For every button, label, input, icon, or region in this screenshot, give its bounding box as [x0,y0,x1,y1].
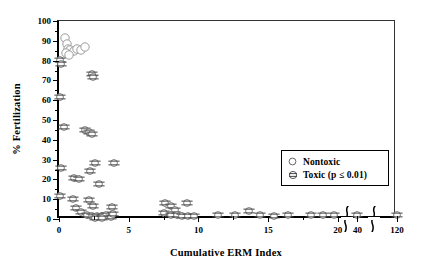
data-point-toxic [317,209,329,221]
data-point-toxic [107,208,119,220]
y-tick [53,120,59,121]
open-circle-icon [287,156,298,167]
y-tick-minor [55,130,59,131]
legend-label-nontoxic: Nontoxic [303,157,340,167]
y-tick-label: 0 [47,214,52,224]
axis-break-icon [341,206,353,232]
data-point-toxic [305,210,317,222]
y-tick-label: 20 [42,174,51,184]
data-point-toxic [243,205,255,217]
data-point-toxic [254,210,266,222]
data-point-toxic [268,210,280,222]
legend-label-toxic: Toxic (p ≤ 0.01) [303,170,367,180]
x-tick-minor [164,216,165,220]
y-tick-minor [55,110,59,111]
x-tick-minor [233,216,234,220]
plot-area: 01020304050607080901000510152040120 [57,20,395,218]
x-tick [59,216,60,222]
data-point-toxic [282,210,294,222]
x-tick-label: 15 [264,225,273,235]
x-tick [357,216,358,222]
y-tick-minor [55,170,59,171]
barred-circle-icon [287,169,298,180]
x-tick-minor [94,216,95,220]
y-tick-minor [55,150,59,151]
y-tick-label: 10 [42,194,51,204]
y-tick-label: 30 [42,155,51,165]
axis-break-icon [368,206,380,232]
y-tick [53,140,59,141]
x-tick [198,216,199,222]
y-tick [53,41,59,42]
x-tick-label: 10 [194,225,203,235]
data-point-toxic [229,210,241,222]
y-tick [53,21,59,22]
data-point-toxic [73,173,85,185]
y-tick-label: 40 [42,135,51,145]
y-tick [53,160,59,161]
data-point-toxic [54,190,66,202]
y-tick-label: 80 [42,56,51,66]
x-tick-label: 5 [126,225,131,235]
data-point-toxic [58,121,70,133]
legend-item-toxic: Toxic (p ≤ 0.01) [287,168,383,181]
data-point-toxic [96,212,108,224]
y-tick-minor [55,51,59,52]
data-point-toxic [87,72,99,84]
y-tick-label: 90 [42,36,51,46]
data-point-toxic [55,162,67,174]
y-tick-minor [55,209,59,210]
x-tick-label: 120 [390,225,404,235]
legend: Nontoxic Toxic (p ≤ 0.01) [281,150,389,186]
y-tick [53,179,59,180]
x-tick [129,216,130,222]
y-tick-label: 100 [38,16,52,26]
x-tick-label: 40 [353,225,362,235]
data-point-toxic [54,91,66,103]
data-point-toxic [181,197,193,209]
x-tick-label: 0 [57,225,62,235]
y-tick-label: 50 [42,115,51,125]
y-tick [53,61,59,62]
y-tick-minor [55,71,59,72]
data-point-toxic [212,210,224,222]
y-axis-title: % Fertilization [11,83,22,155]
x-axis-title: Cumulative ERM Index [170,247,282,258]
x-tick [268,216,269,222]
x-tick-minor [303,216,304,220]
x-tick [397,216,398,222]
data-point-toxic [86,128,98,140]
data-point-toxic [93,178,105,190]
y-tick-label: 60 [42,95,51,105]
data-canvas [59,21,394,216]
figure: % Fertilization Cumulative ERM Index 010… [0,0,424,267]
y-tick-minor [55,90,59,91]
x-tick [338,216,339,222]
y-tick [53,199,59,200]
y-tick [53,100,59,101]
data-point-toxic [108,157,120,169]
y-tick-label: 70 [42,75,51,85]
y-tick [53,80,59,81]
data-point-toxic [84,166,96,178]
data-point-toxic [55,58,67,70]
y-tick-minor [55,31,59,32]
legend-item-nontoxic: Nontoxic [287,155,383,168]
y-axis-title-wrapper: % Fertilization [14,0,16,238]
y-tick-minor [55,189,59,190]
data-point-nontoxic [79,41,90,52]
